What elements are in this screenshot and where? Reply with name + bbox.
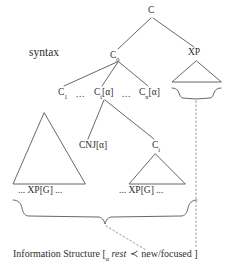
node-cnj-alpha: CNJ[α] bbox=[79, 141, 107, 151]
triangle-xp bbox=[172, 61, 221, 82]
is-rest-term: rest bbox=[112, 248, 127, 259]
node-cnj-alpha-bracket: [α] bbox=[96, 140, 107, 150]
node-xp: XP bbox=[188, 48, 200, 58]
node-ci-alpha: Ci[α] bbox=[94, 88, 113, 99]
node-c1: C1 bbox=[58, 88, 68, 99]
node-c-root-label: C bbox=[148, 5, 154, 15]
brace-information-structure bbox=[13, 200, 197, 224]
ellipsis-between-ci-and-cn: ... bbox=[122, 90, 131, 100]
brace-xp bbox=[172, 88, 221, 99]
node-cnj-alpha-label: CNJ bbox=[79, 140, 96, 150]
dotted-line-brace-to-is bbox=[106, 226, 146, 250]
node-cn-alpha-bracket: [α] bbox=[149, 87, 160, 97]
node-c0: C0 bbox=[110, 51, 120, 62]
node-ci-alpha-bracket: [α] bbox=[102, 87, 113, 97]
node-c1-subscript: 1 bbox=[64, 93, 67, 100]
is-close-bracket: ] bbox=[194, 248, 197, 259]
node-ci-lower: Ci bbox=[152, 141, 160, 152]
node-ci-alpha-subscript: i bbox=[100, 93, 102, 100]
leaf-xp-g-right: ... XP[G] ... bbox=[119, 186, 163, 196]
syntax-tree-figure: syntax C C0 XP C1 ... Ci[α] ... Cn[α] CN… bbox=[0, 0, 230, 266]
ellipsis-between-c1-and-ci: ... bbox=[76, 90, 85, 100]
syntax-level-label: syntax bbox=[29, 47, 59, 59]
edge-ci-to-ci-lower bbox=[105, 100, 154, 139]
edge-c0-to-cn-alpha bbox=[119, 62, 148, 86]
node-c-root: C bbox=[148, 6, 154, 16]
tree-lines-svg bbox=[0, 0, 230, 266]
is-bracket-subscript: α bbox=[106, 255, 109, 262]
information-structure-line: Information Structure [α rest ≺ new/focu… bbox=[13, 249, 198, 261]
leaf-xp-g-left: ... XP[G] ... bbox=[18, 186, 62, 196]
information-structure-label: Information Structure bbox=[13, 248, 100, 259]
node-xp-label: XP bbox=[188, 47, 200, 57]
triangle-small-right bbox=[129, 154, 185, 184]
triangle-large-left bbox=[13, 113, 85, 184]
node-c0-subscript: 0 bbox=[116, 56, 119, 63]
is-precedence-operator: ≺ bbox=[129, 249, 139, 259]
edge-ci-to-cnj bbox=[88, 100, 104, 139]
is-new-focused-term: new/focused bbox=[141, 248, 192, 259]
node-ci-lower-subscript: i bbox=[158, 146, 160, 153]
edge-c-to-xp bbox=[153, 18, 194, 47]
node-cn-alpha: Cn[α] bbox=[139, 88, 160, 99]
edge-c0-to-c1 bbox=[64, 62, 117, 86]
node-cn-alpha-subscript: n bbox=[145, 93, 148, 100]
edge-c-to-c0 bbox=[118, 18, 151, 49]
